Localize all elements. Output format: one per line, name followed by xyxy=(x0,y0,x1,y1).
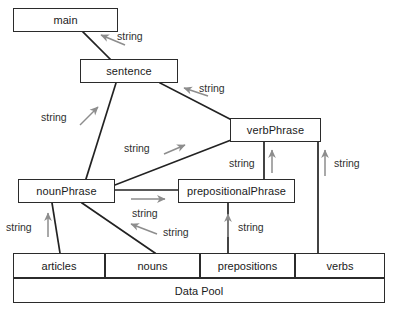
node-main-label: main xyxy=(53,14,77,26)
edge-label-nounphrase-prepphrase: string xyxy=(132,207,158,219)
edge-label-articles-nounphrase: string xyxy=(6,221,32,233)
node-verbphrase[interactable]: verbPhrase xyxy=(230,118,321,142)
pool-cell-prepositions[interactable]: prepositions xyxy=(200,253,295,278)
arrow-nounphrase-to-sentence xyxy=(80,107,98,125)
node-sentence-label: sentence xyxy=(106,65,151,77)
pool-cell-verbs-label: verbs xyxy=(327,260,354,272)
edge-label-prepphrase-verbphrase: string xyxy=(229,157,255,169)
edge-label-sentence-main: string xyxy=(117,30,143,42)
edge-label-verbs-verbphrase: string xyxy=(334,157,360,169)
node-verbphrase-label: verbPhrase xyxy=(247,124,304,136)
node-main[interactable]: main xyxy=(13,8,118,32)
data-pool-base-label: Data Pool xyxy=(175,285,223,297)
line-sentence-nounphrase xyxy=(86,83,116,179)
pool-cell-articles-label: articles xyxy=(42,260,77,272)
data-pool-base[interactable]: Data Pool xyxy=(13,278,385,303)
edge-label-prepositions-prepphrase: string xyxy=(238,221,264,233)
node-prepositionalphrase-label: prepositionalPhrase xyxy=(187,185,286,197)
edge-label-nounphrase-sentence: string xyxy=(41,111,67,123)
node-nounphrase-label: nounPhrase xyxy=(36,185,96,197)
edge-label-nouns-nounphrase: string xyxy=(163,226,189,238)
edge-label-verbphrase-sentence: string xyxy=(199,82,225,94)
node-sentence[interactable]: sentence xyxy=(80,59,178,83)
pool-cell-nouns[interactable]: nouns xyxy=(105,253,200,278)
node-nounphrase[interactable]: nounPhrase xyxy=(18,179,115,203)
pool-cell-articles[interactable]: articles xyxy=(13,253,105,278)
arrow-nouns-to-nounphrase xyxy=(131,224,157,234)
line-sentence-main xyxy=(83,32,110,59)
pool-cell-nouns-label: nouns xyxy=(138,260,168,272)
node-prepositionalphrase[interactable]: prepositionalPhrase xyxy=(178,179,295,203)
arrow-nounphrase-to-verbphrase xyxy=(164,145,185,154)
pool-cell-verbs[interactable]: verbs xyxy=(295,253,385,278)
edge-label-nounphrase-verbphrase: string xyxy=(124,142,150,154)
pool-cell-prepositions-label: prepositions xyxy=(218,260,277,272)
diagram-canvas: main sentence verbPhrase nounPhrase prep… xyxy=(0,0,396,312)
line-nounphrase-articles xyxy=(52,203,60,253)
